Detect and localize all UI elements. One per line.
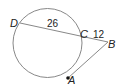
label-A: A: [67, 74, 75, 84]
tangent-line-BA: [68, 42, 108, 78]
label-B: B: [108, 38, 115, 50]
label-D: D: [10, 17, 18, 29]
label-segment-DC: 26: [47, 18, 59, 29]
label-segment-CB: 12: [93, 29, 105, 40]
label-C: C: [80, 28, 88, 40]
diagram-canvas: D 26 C 12 B A: [0, 0, 121, 84]
